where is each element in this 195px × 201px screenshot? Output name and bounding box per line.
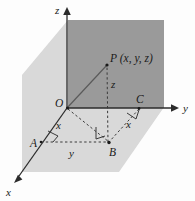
point-P-dot: [105, 63, 108, 66]
z-axis-label: z: [54, 4, 60, 16]
point-O-dot: [66, 107, 69, 110]
point-A-dot: [40, 141, 43, 144]
x-axis-label: x: [5, 186, 11, 198]
y-axis-label: y: [182, 102, 188, 114]
segment-x-left-label: x: [55, 119, 61, 131]
point-B-dot: [107, 141, 110, 144]
point-p-label: P (x, y, z): [109, 52, 153, 65]
segment-x-right-label: x: [125, 118, 131, 130]
coordinate-diagram: z y x O P (x, y, z) A B C z x x y: [0, 0, 195, 201]
point-a-label: A: [29, 137, 38, 149]
origin-label: O: [55, 97, 64, 109]
point-C-dot: [138, 107, 141, 110]
yz-plane-dark: [68, 20, 164, 108]
segment-y-label: y: [68, 147, 74, 159]
segment-z-label: z: [110, 78, 116, 90]
point-c-label: C: [136, 93, 144, 105]
point-b-label: B: [109, 146, 116, 158]
diagram-canvas: z y x O P (x, y, z) A B C z x x y: [0, 0, 195, 201]
